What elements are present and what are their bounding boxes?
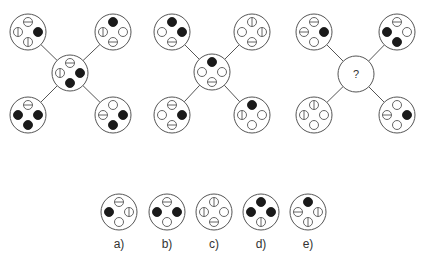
connector-line (327, 87, 343, 103)
dot-horizontal-line-icon (168, 121, 177, 130)
filled-dot-icon (178, 111, 187, 120)
connector-line (225, 45, 240, 60)
empty-dot-icon (119, 28, 128, 37)
filled-dot-icon (208, 58, 217, 67)
node-bottom-right (95, 97, 131, 133)
node-bottom-right (379, 97, 415, 133)
empty-dot-icon (158, 111, 167, 120)
filled-dot-icon (320, 28, 329, 37)
dot-vertical-line-icon (24, 38, 33, 47)
dot-horizontal-line-icon (310, 18, 319, 27)
filled-dot-icon (248, 101, 257, 110)
empty-dot-icon (158, 28, 167, 37)
dot-horizontal-line-icon (248, 38, 257, 47)
empty-dot-icon (238, 28, 247, 37)
filled-dot-icon (153, 208, 162, 217)
node-bottom-right (234, 97, 270, 133)
filled-dot-icon (119, 111, 128, 120)
option-label[interactable]: b) (152, 237, 182, 251)
node-top-left (10, 14, 46, 50)
filled-dot-icon (34, 28, 43, 37)
node-bottom-left (154, 97, 190, 133)
connector-line (83, 44, 100, 60)
filled-dot-icon (24, 121, 33, 130)
option-b[interactable] (149, 194, 185, 230)
empty-dot-icon (393, 101, 402, 110)
dot-horizontal-line-icon (383, 111, 392, 120)
option-label[interactable]: e) (293, 237, 323, 251)
dot-vertical-line-icon (248, 18, 257, 27)
dot-vertical-line-icon (258, 28, 267, 37)
dot-vertical-line-icon (257, 218, 266, 227)
filled-dot-icon (304, 198, 313, 207)
connector-line (83, 86, 100, 103)
dot-horizontal-line-icon (109, 38, 118, 47)
filled-dot-icon (173, 208, 182, 217)
connector-line (224, 85, 239, 102)
filled-dot-icon (178, 28, 187, 37)
empty-dot-icon (403, 28, 412, 37)
option-e[interactable] (290, 194, 326, 230)
node-bottom-left (296, 97, 332, 133)
dot-horizontal-line-icon (66, 59, 75, 68)
connector-line (41, 86, 58, 103)
empty-dot-icon (258, 111, 267, 120)
filled-dot-icon (168, 18, 177, 27)
dot-horizontal-line-icon (99, 111, 108, 120)
filled-dot-icon (76, 69, 85, 78)
connector-line (184, 85, 199, 102)
filled-dot-icon (247, 208, 256, 217)
filled-dot-icon (257, 198, 266, 207)
dot-vertical-line-icon (99, 28, 108, 37)
filled-dot-icon (66, 79, 75, 88)
option-circle (290, 194, 326, 230)
dot-vertical-line-icon (210, 198, 219, 207)
node-top-left (154, 14, 190, 50)
dot-horizontal-line-icon (24, 18, 33, 27)
dot-horizontal-line-icon (300, 28, 309, 37)
empty-dot-icon (198, 68, 207, 77)
node-center (194, 54, 230, 90)
dot-horizontal-line-icon (208, 78, 217, 87)
question-mark: ? (353, 68, 359, 80)
filled-dot-icon (267, 208, 276, 217)
empty-dot-icon (109, 101, 118, 110)
option-a[interactable] (101, 194, 137, 230)
option-label[interactable]: c) (199, 237, 229, 251)
option-circle (196, 194, 232, 230)
dot-vertical-line-icon (300, 111, 309, 120)
connector-line (185, 45, 200, 60)
filled-dot-icon (109, 121, 118, 130)
option-label[interactable]: a) (104, 237, 134, 251)
connector-line (369, 87, 385, 103)
dot-vertical-line-icon (125, 208, 134, 217)
empty-dot-icon (163, 218, 172, 227)
dot-horizontal-line-icon (168, 38, 177, 47)
dot-vertical-line-icon (314, 208, 323, 217)
option-d[interactable] (243, 194, 279, 230)
option-c[interactable] (196, 194, 232, 230)
dot-horizontal-line-icon (210, 218, 219, 227)
empty-dot-icon (220, 208, 229, 217)
node-top-left (296, 14, 332, 50)
dot-horizontal-line-icon (24, 101, 33, 110)
node-top-right (95, 14, 131, 50)
node-top-right (234, 14, 270, 50)
dot-vertical-line-icon (238, 111, 247, 120)
connector-line (369, 45, 385, 61)
dot-vertical-line-icon (304, 218, 313, 227)
filled-dot-icon (109, 18, 118, 27)
filled-dot-icon (14, 111, 23, 120)
figure-3: ? (296, 14, 415, 133)
option-circle (101, 194, 137, 230)
empty-dot-icon (248, 121, 257, 130)
filled-dot-icon (105, 208, 114, 217)
node-bottom-left (10, 97, 46, 133)
dot-horizontal-line-icon (115, 198, 124, 207)
option-label[interactable]: d) (246, 237, 276, 251)
empty-dot-icon (218, 68, 227, 77)
node-center (52, 55, 88, 91)
connector-line (327, 45, 344, 62)
filled-dot-icon (403, 111, 412, 120)
connector-line (41, 45, 57, 61)
